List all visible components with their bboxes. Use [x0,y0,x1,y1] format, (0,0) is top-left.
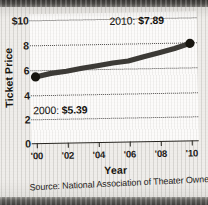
annotation-2010-label: 2010: [109,14,135,26]
ticket-price-line [35,43,191,77]
annotation-2000: 2000: $5.39 [33,103,88,116]
annotation-2000-value: $5.39 [62,103,88,115]
series-layer [0,0,208,205]
annotation-2010: 2010: $7.89 [109,14,164,27]
scanned-chart-clipping: $10 8 6 4 2 0 Ticket Price '00 '02 '04 '… [0,0,208,205]
annotation-2000-label: 2000: [33,104,59,116]
chart-figure: $10 8 6 4 2 0 Ticket Price '00 '02 '04 '… [0,0,208,205]
annotation-2010-value: $7.89 [138,14,164,26]
